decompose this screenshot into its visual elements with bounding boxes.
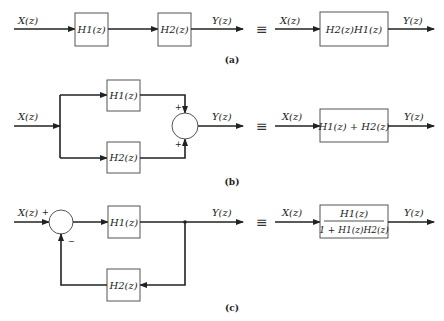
equivalence-symbol: ≡ (256, 118, 268, 134)
equiv-input-label: X(z) (281, 111, 302, 122)
block-h1-label: H1(z) (109, 217, 138, 228)
output-label: Y(z) (212, 207, 232, 218)
block-h2-label: H2(z) (108, 280, 137, 291)
panel-b: X(z) H1(z) H2(z) + + Y(z) ≡ X(z) H1(z) +… (14, 80, 434, 187)
minus-sign: − (68, 237, 75, 246)
plus-sign: + (42, 208, 49, 217)
output-label: Y(z) (212, 111, 232, 122)
feedback-arrow (140, 222, 185, 285)
input-label: X(z) (17, 207, 38, 218)
block-h1-label: H1(z) (108, 90, 137, 101)
plus-sign-top: + (175, 103, 182, 112)
equiv-block-denominator: 1 + H1(z)H2(z) (319, 225, 389, 235)
block-diagram-figure: X(z) H1(z) H2(z) Y(z) ≡ X(z) H2(z)H1(z) … (0, 0, 444, 321)
panel-a: X(z) H1(z) H2(z) Y(z) ≡ X(z) H2(z)H1(z) … (14, 12, 434, 65)
equiv-block-numerator: H1(z) (339, 208, 368, 219)
equiv-output-label: Y(z) (404, 111, 424, 122)
equiv-output-label: Y(z) (404, 207, 424, 218)
equiv-block-label: H2(z)H1(z) (325, 24, 382, 35)
block-h1-label: H1(z) (76, 24, 105, 35)
equiv-output-label: Y(z) (403, 15, 423, 26)
block-h2-label: H2(z) (159, 24, 188, 35)
equiv-input-label: X(z) (279, 15, 300, 26)
summing-junction (49, 210, 73, 234)
plus-sign-bottom: + (175, 140, 182, 149)
caption-b: (b) (225, 177, 240, 187)
output-label: Y(z) (212, 15, 232, 26)
equivalence-symbol: ≡ (256, 214, 268, 230)
caption-c: (c) (225, 303, 239, 313)
input-label: X(z) (17, 15, 38, 26)
equivalence-symbol: ≡ (256, 21, 268, 37)
caption-a: (a) (225, 55, 239, 65)
input-label: X(z) (17, 111, 38, 122)
equiv-input-label: X(z) (281, 207, 302, 218)
panel-c: X(z) + − H1(z) Y(z) H2(z) ≡ X(z) H1(z) 1… (14, 205, 434, 313)
equiv-block-label: H1(z) + H2(z) (317, 121, 389, 132)
summing-junction (172, 113, 198, 139)
block-h2-label: H2(z) (108, 152, 137, 163)
